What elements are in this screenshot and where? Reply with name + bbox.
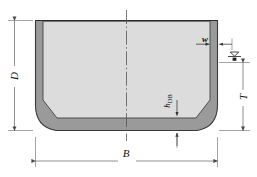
hdb-label-main: h (162, 103, 172, 108)
breadth-dimension-label: B (123, 148, 130, 159)
waterline-triangle (230, 52, 238, 56)
depth-dimension-label: D (9, 72, 20, 80)
midship-section-figure: D B T w hDB (0, 0, 257, 177)
waterline-block (233, 58, 237, 61)
double-bottom-height-label: hDB (163, 94, 172, 108)
draft-dimension-label: T (238, 94, 249, 100)
hdb-label-subscript: DB (165, 94, 172, 103)
waterline-marker-icon (228, 52, 241, 61)
shell-thickness-label: w (202, 35, 208, 44)
